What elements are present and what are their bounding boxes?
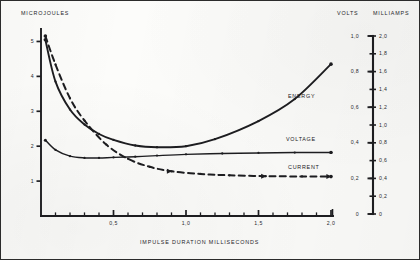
milliamps-tick-2: 0,4 xyxy=(379,175,387,181)
milliamps-tick-5: 1,0 xyxy=(379,122,387,128)
milliamps-tick-0: 0 xyxy=(379,211,382,217)
left-tick-2: 2 xyxy=(31,143,34,149)
milliamps-tick-4: 0,8 xyxy=(379,139,387,145)
plot-canvas xyxy=(1,1,420,260)
volts-tick-1: 0,2 xyxy=(351,175,359,181)
milliamps-tick-3: 0,6 xyxy=(379,157,387,163)
chart-figure: MICROJOULES VOLTS MILLIAMPS IMPULSE DURA… xyxy=(0,0,420,260)
left-tick-1: 1 xyxy=(31,178,34,184)
series-energy xyxy=(44,38,333,148)
series-group xyxy=(44,34,333,179)
volts-tick-0: 0 xyxy=(356,211,359,217)
series-voltage xyxy=(44,139,333,159)
milliamps-tick-8: 1,6 xyxy=(379,68,387,74)
volts-tick-2: 0,4 xyxy=(351,139,359,145)
volts-tick-3: 0,6 xyxy=(351,104,359,110)
milliamps-tick-6: 1,2 xyxy=(379,104,387,110)
x-tick-1,0: 1,0 xyxy=(182,220,190,226)
left-tick-5: 5 xyxy=(31,38,34,44)
milliamps-tick-10: 2,0 xyxy=(379,33,387,39)
volts-tick-4: 0,8 xyxy=(351,68,359,74)
left-tick-3: 3 xyxy=(31,108,34,114)
volts-tick-5: 1,0 xyxy=(351,33,359,39)
milliamps-tick-1: 0,2 xyxy=(379,193,387,199)
x-tick-0,5: 0,5 xyxy=(109,220,117,226)
left-tick-4: 4 xyxy=(31,73,34,79)
milliamps-tick-9: 1,8 xyxy=(379,50,387,56)
axes-group xyxy=(37,29,377,216)
x-tick-1,5: 1,5 xyxy=(254,220,262,226)
x-tick-2,0: 2,0 xyxy=(327,220,335,226)
milliamps-tick-7: 1,4 xyxy=(379,86,387,92)
